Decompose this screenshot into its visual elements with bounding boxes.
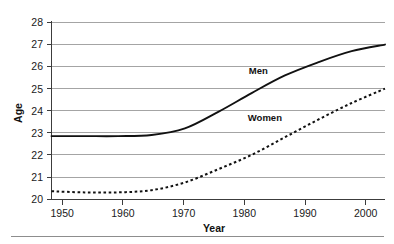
x-tick-label-1980: 1980: [233, 207, 257, 219]
series-line-men: [52, 45, 386, 137]
x-tick-label-1960: 1960: [111, 207, 135, 219]
series-annotation-women: Women: [248, 112, 282, 123]
y-tick-label-20: 20: [31, 193, 43, 205]
y-tick-label-26: 26: [31, 60, 43, 72]
x-tick-label-1990: 1990: [293, 207, 317, 219]
y-tick-label-25: 25: [31, 83, 43, 95]
y-tick-label-28: 28: [31, 16, 43, 28]
x-axis-title: Year: [203, 222, 225, 234]
x-tick-label-2000: 2000: [354, 207, 378, 219]
y-tick-labels: 28 27 26 25 24 23 22 21 20: [31, 16, 43, 205]
y-axis-title: Age: [12, 103, 24, 123]
series-annotation-men: Men: [249, 65, 268, 76]
y-tick-label-27: 27: [31, 38, 43, 50]
chart-figure: 28 27 26 25 24 23 22 21 20 1950 1960 197…: [0, 0, 394, 244]
y-tick-label-22: 22: [31, 149, 43, 161]
x-tick-marks: [62, 200, 366, 206]
x-tick-label-1950: 1950: [51, 207, 75, 219]
gridlines: [51, 23, 385, 178]
age-at-first-marriage-line-chart: 28 27 26 25 24 23 22 21 20 1950 1960 197…: [0, 0, 394, 244]
x-tick-label-1970: 1970: [172, 207, 196, 219]
y-tick-label-23: 23: [31, 127, 43, 139]
x-tick-labels: 1950 1960 1970 1980 1990 2000: [51, 207, 378, 219]
y-tick-label-24: 24: [31, 105, 43, 117]
y-tick-marks: [47, 23, 51, 200]
y-tick-label-21: 21: [31, 171, 43, 183]
